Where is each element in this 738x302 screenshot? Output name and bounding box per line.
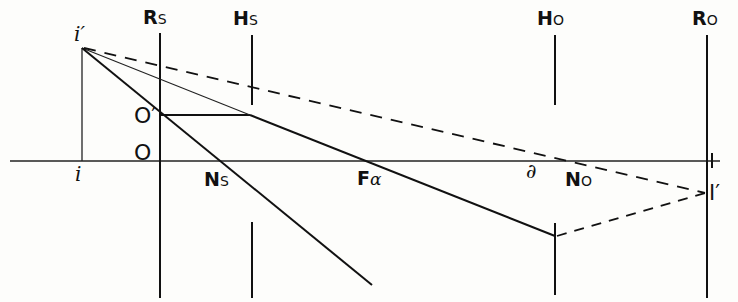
dashed-ray-return <box>84 48 705 193</box>
label-i: i <box>75 164 81 184</box>
label-ro: RO <box>692 9 718 28</box>
label-image-i-prime: I′ <box>709 183 720 204</box>
nodal-ray <box>82 48 372 285</box>
label-o: O <box>134 142 151 164</box>
label-fa: Fα <box>357 169 381 188</box>
label-ns: NS <box>204 170 229 189</box>
label-i-prime: i′ <box>74 24 85 44</box>
label-no: NO <box>565 170 592 189</box>
label-delta: ∂ <box>526 161 536 181</box>
dashed-ray-image <box>557 193 705 236</box>
label-ho: HO <box>537 9 564 28</box>
label-o-prime: O′ <box>134 105 156 127</box>
thin-ray <box>82 48 250 115</box>
ray-diagram: RS HS HO RO i′ i O′ O NS Fα ∂ NO I′ <box>0 0 738 302</box>
diagram-lines <box>0 0 738 302</box>
focal-ray <box>250 115 555 236</box>
label-rs: RS <box>143 8 167 27</box>
label-hs: HS <box>233 9 258 28</box>
